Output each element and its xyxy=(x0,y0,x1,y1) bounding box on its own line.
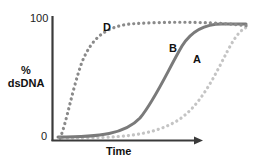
series-label-d: D xyxy=(103,22,111,33)
y-axis-label-line2: dsDNA xyxy=(6,77,46,90)
y-axis-label: % dsDNA xyxy=(6,64,46,89)
y-axis-label-line1: % xyxy=(6,64,46,77)
x-axis-label: Time xyxy=(106,145,131,158)
curve-d xyxy=(60,22,248,138)
x-axis-arrow-icon xyxy=(194,137,203,145)
y-tick-0: 0 xyxy=(41,131,47,142)
curve-a xyxy=(62,26,250,138)
y-tick-100: 100 xyxy=(30,13,48,24)
melting-curve-chart: 100 0 % dsDNA Time D B A xyxy=(0,0,260,163)
series-label-a: A xyxy=(193,54,201,65)
curve-b xyxy=(58,24,246,137)
series-label-b: B xyxy=(169,43,177,54)
